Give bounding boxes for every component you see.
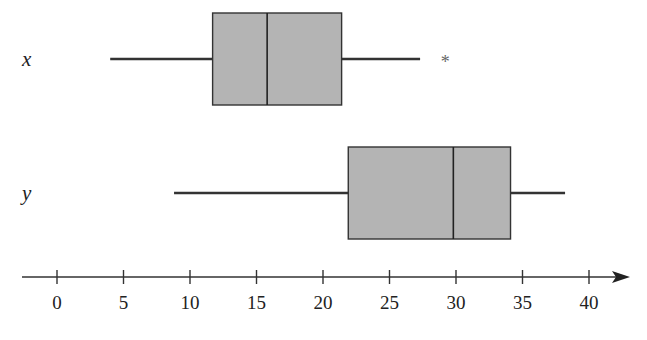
x-tick-label: 30 — [447, 292, 466, 313]
x-tick-label: 10 — [181, 292, 200, 313]
x-tick-label: 20 — [314, 292, 333, 313]
x-tick-label: 40 — [580, 292, 599, 313]
outlier-point: * — [441, 52, 450, 72]
boxplot-chart: x*y 0510152025303540 — [0, 0, 647, 340]
boxes-layer: x*y — [20, 13, 565, 239]
iqr-box — [213, 13, 342, 105]
x-tick-label: 15 — [247, 292, 266, 313]
x-tick-label: 0 — [52, 292, 62, 313]
x-tick-label: 25 — [380, 292, 399, 313]
series-label: x — [21, 47, 32, 71]
iqr-box — [348, 147, 510, 239]
x-axis: 0510152025303540 — [22, 270, 630, 313]
box-series-y: y — [20, 147, 565, 239]
box-series-x: x* — [21, 13, 450, 105]
x-tick-label: 5 — [119, 292, 129, 313]
x-tick-label: 35 — [513, 292, 532, 313]
series-label: y — [20, 181, 32, 205]
